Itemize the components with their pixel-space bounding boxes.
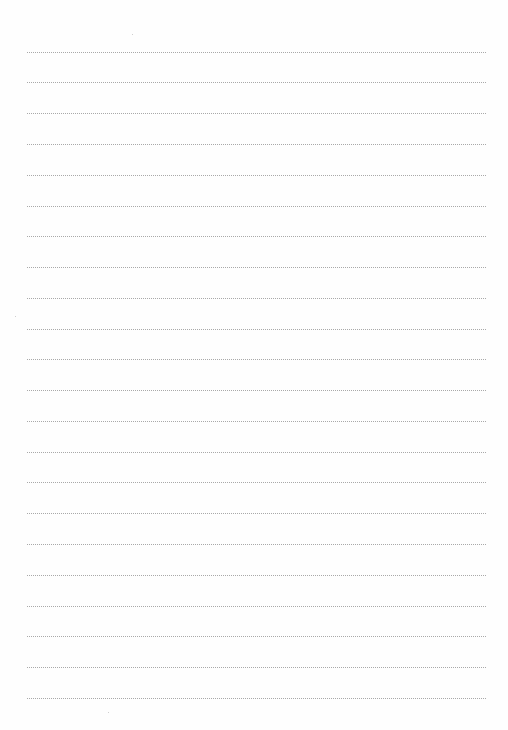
- scan-speck: [15, 316, 16, 317]
- ruled-line: [27, 82, 487, 83]
- scan-speck: [108, 712, 109, 713]
- ruled-line: [27, 329, 487, 330]
- ruled-line: [27, 390, 487, 391]
- ruled-line: [27, 636, 487, 637]
- ruled-line: [27, 513, 487, 514]
- ruled-line: [27, 606, 487, 607]
- ruled-line: [27, 267, 487, 268]
- ruled-line: [27, 144, 487, 145]
- ruled-line: [27, 482, 487, 483]
- ruled-line: [27, 667, 487, 668]
- ruled-line: [27, 698, 487, 699]
- ruled-line: [27, 236, 487, 237]
- ruled-line: [27, 206, 487, 207]
- scan-speck: [132, 34, 133, 35]
- ruled-line: [27, 575, 487, 576]
- ruled-line: [27, 452, 487, 453]
- ruled-line: [27, 113, 487, 114]
- ruled-line: [27, 175, 487, 176]
- ruled-line: [27, 52, 487, 53]
- ruled-line: [27, 544, 487, 545]
- lined-paper-page: [0, 0, 508, 730]
- ruled-line: [27, 359, 487, 360]
- ruled-line: [27, 298, 487, 299]
- ruled-line: [27, 421, 487, 422]
